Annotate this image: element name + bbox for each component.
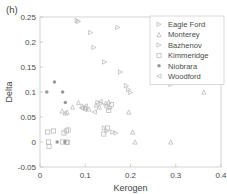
legend-marker-niobrara (157, 64, 161, 68)
data-point (169, 140, 173, 144)
data-point (128, 90, 132, 94)
legend-label-niobrara[interactable]: Niobrara (168, 62, 198, 71)
legend-label-eagle-ford[interactable]: Eagle Ford (168, 20, 205, 29)
x-tick-label: 0.4 (215, 171, 227, 180)
legend-label-monterey[interactable]: Monterey (168, 30, 200, 39)
data-point (92, 45, 96, 49)
data-point (47, 144, 51, 148)
y-tick-label: 0.1 (25, 88, 37, 97)
data-point (107, 100, 111, 104)
data-point (60, 109, 64, 113)
series-woodford (80, 99, 103, 114)
data-point (45, 90, 49, 94)
data-point (92, 110, 96, 114)
series-eagle-ford (75, 18, 133, 94)
x-axis-tick-labels: 00.10.20.30.4 (38, 171, 227, 180)
data-point (70, 105, 74, 109)
data-point (76, 100, 80, 104)
y-tick-label: 0.15 (20, 63, 36, 72)
x-tick-label: 0.1 (80, 171, 92, 180)
data-point (89, 30, 93, 34)
figure-panel: (h) -0.0500.050.10.150.20.25 00.10.20.30… (0, 0, 227, 194)
x-axis-title: Kerogen (113, 183, 147, 193)
data-point (116, 25, 120, 29)
data-point (202, 90, 206, 94)
series-monterey (60, 90, 206, 144)
x-tick-label: 0.2 (125, 171, 137, 180)
data-point (53, 80, 57, 84)
legend[interactable]: Eagle FordMontereyBazhenovKimmeridgeNiob… (150, 16, 224, 84)
panel-label: (h) (6, 4, 18, 15)
data-point (61, 90, 65, 94)
y-tick-label: 0.25 (20, 13, 36, 22)
legend-label-kimmeridge[interactable]: Kimmeridge (168, 51, 209, 60)
data-point (111, 130, 115, 134)
legend-label-woodford[interactable]: Woodford (168, 72, 201, 81)
y-tick-label: 0.05 (20, 113, 36, 122)
data-point (46, 140, 50, 144)
data-point (46, 130, 50, 134)
y-axis-title: Delta (4, 81, 14, 102)
data-point (103, 60, 107, 64)
x-tick-label: 0.3 (170, 171, 182, 180)
data-point (64, 101, 68, 105)
data-point (51, 129, 55, 133)
data-point (131, 130, 135, 134)
data-point (114, 131, 118, 135)
y-tick-label: 0 (32, 138, 37, 147)
data-point (55, 140, 59, 144)
y-tick-label: 0.2 (25, 38, 37, 47)
legend-label-bazhenov[interactable]: Bazhenov (168, 41, 202, 50)
data-point (133, 140, 137, 144)
scatter-chart: (h) -0.0500.050.10.150.20.25 00.10.20.30… (0, 0, 227, 194)
x-tick-label: 0 (38, 171, 43, 180)
data-point (63, 140, 67, 144)
data-point (127, 110, 131, 114)
data-point (118, 70, 122, 74)
y-axis-tick-labels: -0.0500.050.10.150.20.25 (18, 13, 37, 172)
y-tick-label: -0.05 (18, 163, 37, 172)
